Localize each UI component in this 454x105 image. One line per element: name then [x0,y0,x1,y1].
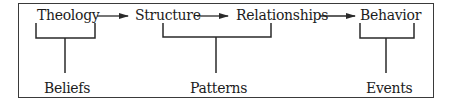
bracket-patterns [163,23,271,37]
label-beliefs: Beliefs [44,80,90,96]
diagram: Theology Structure Relationships Behavio… [0,0,454,105]
label-events: Events [366,80,412,96]
node-behavior: Behavior [360,7,421,23]
bracket-events [360,23,414,38]
label-patterns: Patterns [190,80,247,96]
node-relationships: Relationships [236,7,328,23]
bracket-beliefs [36,23,95,38]
node-theology: Theology [37,7,99,23]
node-structure: Structure [135,7,201,23]
